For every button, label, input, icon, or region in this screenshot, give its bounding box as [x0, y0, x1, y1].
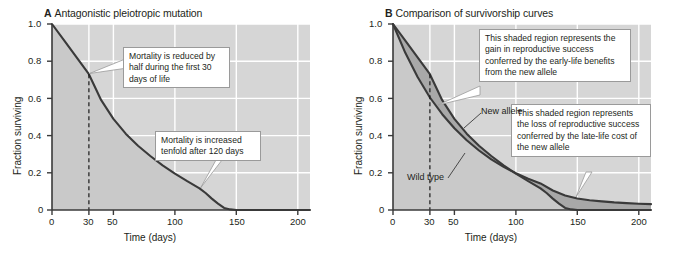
x-tick-50: 50 — [448, 216, 459, 227]
callout-mortality-reduced: Mortality is reduced by half during the … — [123, 47, 230, 88]
callout-late-life-loss: This shaded region represents the loss o… — [511, 104, 651, 157]
x-tick-0: 0 — [390, 216, 395, 227]
callout-early-life-gain: This shaded region represents the gain i… — [479, 29, 631, 82]
label-new-allele: New allele — [481, 106, 523, 116]
x-tick-0: 0 — [49, 216, 54, 227]
panel-a-y-axis-label: Fraction surviving — [12, 97, 23, 175]
x-tick-200: 200 — [631, 216, 647, 227]
x-tick-150: 150 — [229, 216, 245, 227]
y-tick-0.2: 0.2 — [28, 167, 41, 178]
panel-b-x-axis-label: Time (days) — [341, 232, 641, 243]
panel-a-x-axis-label: Time (days) — [0, 232, 300, 243]
panel-b-y-axis-label: Fraction surviving — [353, 97, 364, 175]
x-tick-30: 30 — [83, 216, 94, 227]
y-tick-0.8: 0.8 — [28, 55, 41, 66]
y-tick-0.4: 0.4 — [369, 130, 382, 141]
x-tick-100: 100 — [508, 216, 524, 227]
y-tick-0.2: 0.2 — [369, 167, 382, 178]
y-tick-0.6: 0.6 — [369, 93, 382, 104]
callout-mortality-increased: Mortality is increased tenfold after 120… — [155, 131, 261, 161]
y-tick-1.0: 1.0 — [369, 18, 382, 29]
label-wild-type: Wild type — [407, 172, 444, 182]
x-tick-50: 50 — [107, 216, 118, 227]
panel-a: AAntagonistic pleiotropic mutation — [0, 0, 341, 255]
x-tick-200: 200 — [290, 216, 306, 227]
y-tick-0.6: 0.6 — [28, 93, 41, 104]
y-tick-0: 0 — [38, 204, 43, 215]
x-tick-150: 150 — [570, 216, 586, 227]
x-tick-30: 30 — [424, 216, 435, 227]
x-tick-100: 100 — [167, 216, 183, 227]
y-tick-1.0: 1.0 — [28, 18, 41, 29]
y-tick-0: 0 — [379, 204, 384, 215]
y-tick-0.4: 0.4 — [28, 130, 41, 141]
panel-b: BComparison of survivorship curves — [341, 0, 682, 255]
y-tick-0.8: 0.8 — [369, 55, 382, 66]
figure-survivorship-curves: AAntagonistic pleiotropic mutation — [0, 0, 682, 255]
